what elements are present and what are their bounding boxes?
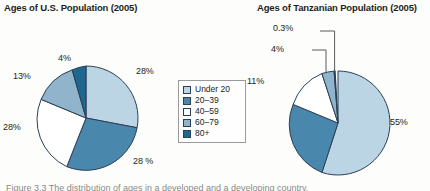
pie-chart-us: [33, 65, 139, 171]
age-group-legend: Under 20 20–39 40–59 60–79 80+: [178, 80, 246, 143]
legend-item-60-79: 60–79: [183, 117, 241, 128]
pie-chart-tanzania: [285, 70, 391, 176]
leader-line-tz-80plus: [320, 31, 335, 72]
data-label-us-under20: 28%: [136, 66, 154, 76]
legend-swatch-icon-40-59: [183, 108, 191, 116]
data-label-tz-80plus: 0.3%: [273, 23, 293, 33]
data-label-tz-under20: 55%: [390, 117, 408, 127]
data-label-tz-60-79: 4%: [271, 44, 284, 54]
figure-two-pie-charts: Ages of U.S. Population (2005) 28% 28 % …: [0, 0, 430, 191]
legend-item-40-59: 40–59: [183, 106, 241, 117]
pie-slice-us-under20: [86, 66, 138, 128]
data-label-tz-40-59: 11%: [247, 76, 264, 86]
legend-label-80-plus: 80+: [195, 129, 209, 138]
legend-label-20-39: 20–39: [195, 96, 219, 105]
data-label-us-80plus: 4%: [58, 53, 71, 63]
figure-caption-text: Figure 3.3 The distribution of ages in a…: [6, 183, 308, 191]
legend-item-20-39: 20–39: [183, 95, 241, 106]
data-label-us-20-39: 28 %: [133, 156, 153, 166]
legend-item-under-20: Under 20: [183, 84, 241, 95]
page-title-us: Ages of U.S. Population (2005): [4, 2, 137, 13]
legend-label-under-20: Under 20: [195, 85, 230, 94]
legend-swatch-icon-20-39: [183, 97, 191, 105]
legend-swatch-icon-80-plus: [183, 130, 191, 138]
panel-tanzania-population: Ages of Tanzanian Population (2005): [215, 0, 430, 191]
data-label-us-60-79: 13%: [13, 71, 31, 81]
legend-label-40-59: 40–59: [195, 107, 219, 116]
legend-label-60-79: 60–79: [195, 118, 219, 127]
legend-swatch-icon-under-20: [183, 86, 191, 94]
legend-item-80-plus: 80+: [183, 128, 241, 139]
figure-caption: Figure 3.3 The distribution of ages in a…: [6, 183, 308, 191]
page-title-tanzania: Ages of Tanzanian Population (2005): [257, 2, 417, 13]
data-label-us-40-59: 28%: [3, 122, 21, 132]
leader-line-tz-60-79: [312, 50, 326, 73]
legend-swatch-icon-60-79: [183, 119, 191, 127]
